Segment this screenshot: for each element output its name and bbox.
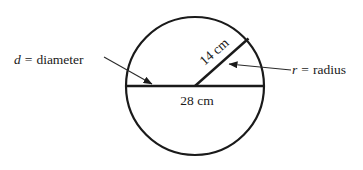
circle-diagram-figure: d=diameter r=radius 28 cm 14 cm	[0, 0, 363, 170]
diameter-equals: =	[25, 52, 33, 67]
radius-label: r=radius	[292, 62, 346, 77]
diameter-measure-label: 28 cm	[180, 93, 214, 108]
radius-symbol: r	[292, 62, 298, 77]
radius-equals: =	[301, 62, 309, 77]
diameter-leader-arrow	[104, 57, 152, 84]
diameter-label: d=diameter	[14, 52, 84, 67]
diameter-word: diameter	[36, 52, 84, 67]
radius-measure-label: 14 cm	[197, 35, 232, 69]
radius-word: radius	[313, 62, 346, 77]
diameter-symbol: d	[14, 52, 21, 67]
